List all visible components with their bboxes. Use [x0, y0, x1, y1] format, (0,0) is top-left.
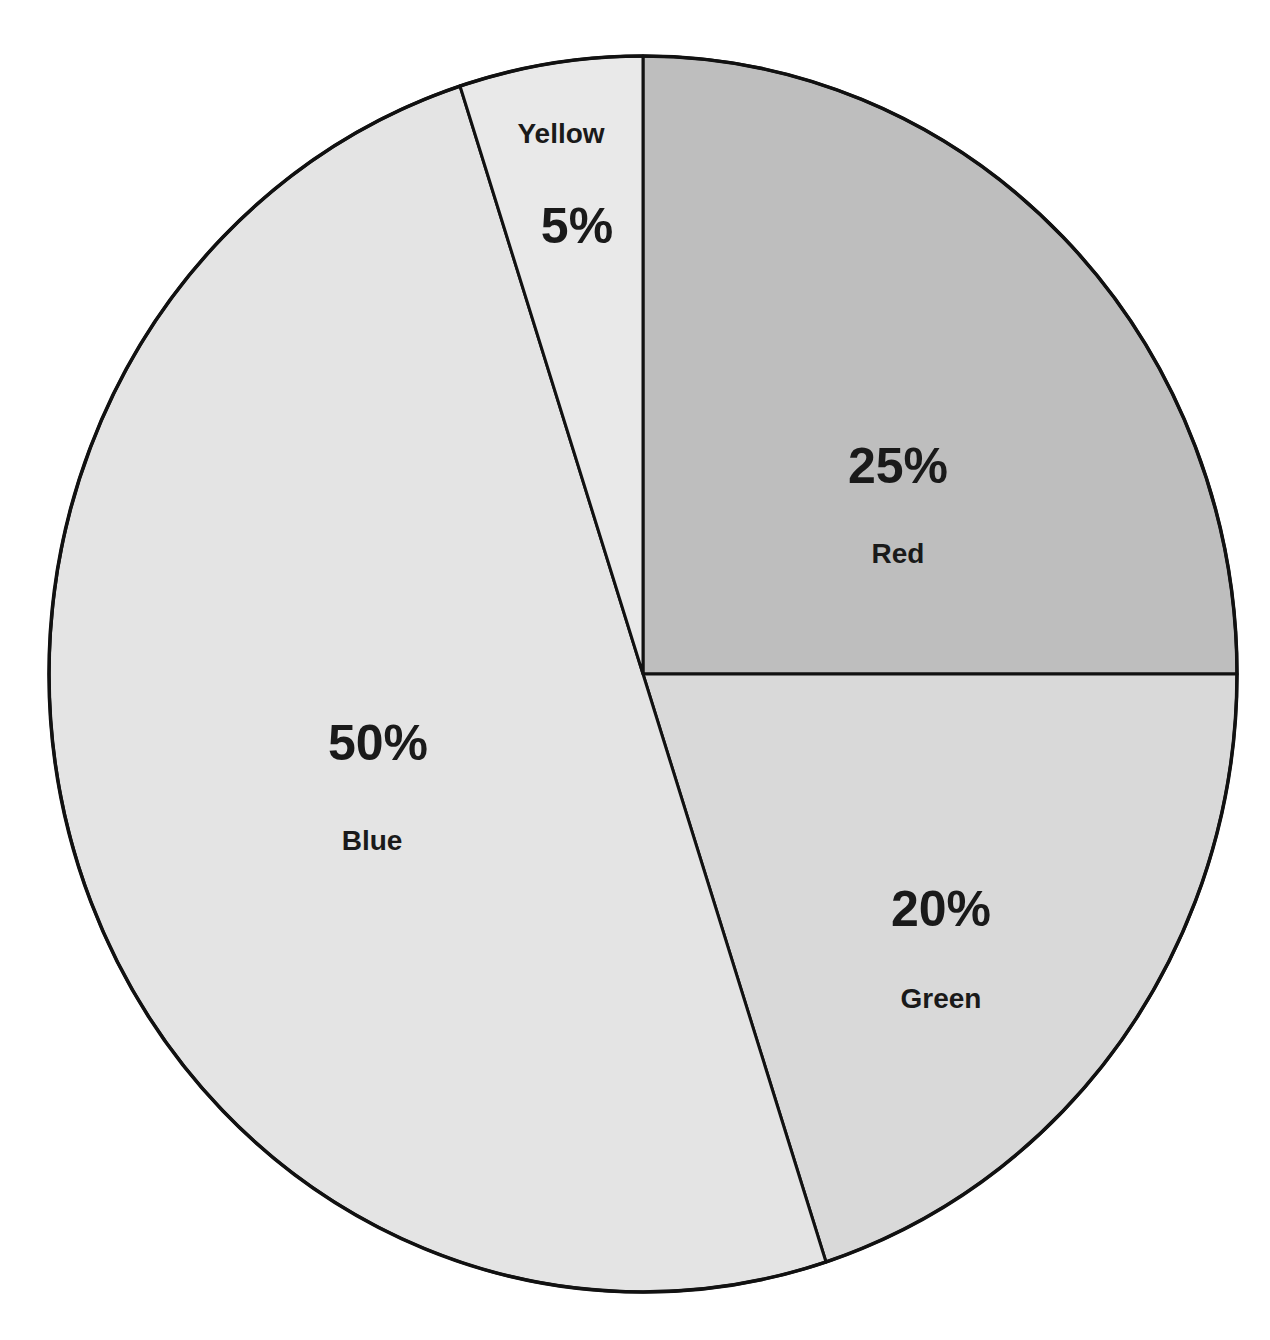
label-yellow-name: Yellow — [517, 118, 604, 149]
slice-red — [643, 56, 1237, 674]
label-blue-name: Blue — [342, 825, 403, 856]
label-red-name: Red — [872, 538, 925, 569]
label-green-pct: 20% — [891, 881, 991, 937]
pie-chart: Yellow 5% 25% Red 50% Blue 20% Green — [0, 0, 1270, 1340]
label-yellow-pct: 5% — [541, 198, 613, 254]
label-green-name: Green — [901, 983, 982, 1014]
label-blue-pct: 50% — [328, 715, 428, 771]
label-red-pct: 25% — [848, 438, 948, 494]
